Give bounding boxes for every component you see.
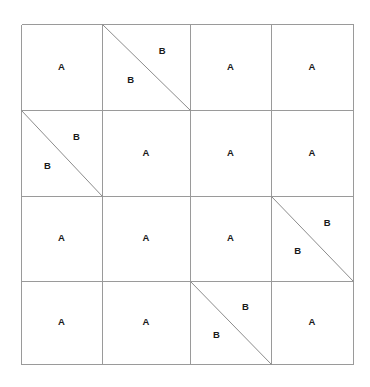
cell-r4-c3-label-upper: B <box>242 301 249 312</box>
cell-r1-c2-label-lower: B <box>127 74 134 85</box>
cell-r3-c2-label: A <box>143 232 150 243</box>
cell-r1-c2-label-upper: B <box>159 45 166 56</box>
cell-r2-c1-label-upper: B <box>73 131 80 142</box>
grid-canvas: ABBAABBAAAAAABBAABBA <box>0 0 370 387</box>
grid-lines <box>22 25 354 365</box>
cell-r3-c3-label: A <box>227 232 234 243</box>
cell-r2-c3-label: A <box>227 147 234 158</box>
cell-r3-c4-label-lower: B <box>294 245 301 256</box>
cell-diagonals <box>22 25 354 365</box>
cell-r2-c4-label: A <box>309 147 316 158</box>
cell-labels: ABBAABBAAAAAABBAABBA <box>44 45 331 339</box>
cell-r3-c4-label-upper: B <box>324 217 331 228</box>
cell-r1-c3-label: A <box>227 61 234 72</box>
cell-r2-c1-diagonal <box>22 111 103 197</box>
cell-r4-c3-diagonal <box>191 282 272 365</box>
cell-r2-c2-label: A <box>143 147 150 158</box>
cell-r4-c2-label: A <box>143 316 150 327</box>
cell-r3-c1-label: A <box>58 232 65 243</box>
cell-r1-c2-diagonal <box>103 25 191 111</box>
cell-r1-c4-label: A <box>309 61 316 72</box>
cell-r4-c4-label: A <box>309 316 316 327</box>
cell-r1-c1-label: A <box>58 61 65 72</box>
cell-r4-c3-label-lower: B <box>213 329 220 340</box>
cell-r3-c4-diagonal <box>272 197 354 282</box>
grid-diagram: ABBAABBAAAAAABBAABBA <box>0 0 370 387</box>
cell-r2-c1-label-lower: B <box>44 160 51 171</box>
cell-r4-c1-label: A <box>58 316 65 327</box>
